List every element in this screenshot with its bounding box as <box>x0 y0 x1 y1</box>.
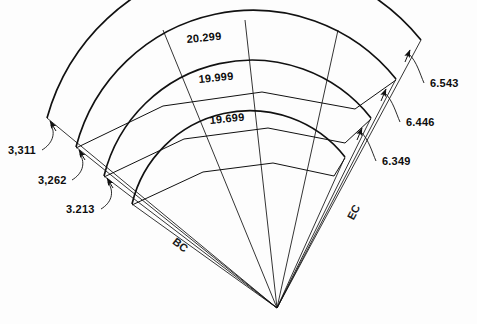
chord-label-outer: 20.299 <box>186 30 222 45</box>
radial-ec-middle <box>277 79 396 308</box>
left-offset-label-inner: 3.213 <box>66 203 95 215</box>
curve-diagram-canvas: 3,311 3,262 3.213 6.543 6.446 6.349 20.2… <box>0 0 477 324</box>
outer-inner-arc <box>76 10 396 147</box>
right-offset-annotations: 6.543 6.446 6.349 <box>357 50 459 167</box>
right-offset-label-middle: 6.446 <box>406 116 435 128</box>
radial-ec-innermost <box>277 157 345 308</box>
outer-outer-arc <box>47 0 421 118</box>
inner-band <box>132 111 345 205</box>
radial-station-2 <box>245 20 277 308</box>
left-offset-label-outer: 3,311 <box>8 144 36 156</box>
radial-ec-outer <box>277 40 421 308</box>
curve-diagram-svg: 3,311 3,262 3.213 6.543 6.446 6.349 20.2… <box>0 0 477 324</box>
right-tick-outer <box>405 50 410 62</box>
left-leader-outer <box>42 125 53 150</box>
radial-bc-inner <box>104 176 277 308</box>
left-offset-label-middle: 3,262 <box>38 174 67 186</box>
right-leader-middle <box>385 93 400 122</box>
chord-length-labels: 20.299 19.999 19.699 <box>186 30 245 126</box>
station-label-ec: EC <box>345 203 363 222</box>
radial-bc-middle <box>76 147 277 308</box>
chord-label-middle: 19.999 <box>198 70 234 85</box>
station-label-bc: BC <box>171 235 191 254</box>
right-offset-label-outer: 6.543 <box>430 77 459 89</box>
outer-band <box>47 0 421 148</box>
left-leader-middle <box>72 154 83 180</box>
middle-chord-polyline <box>104 119 371 177</box>
radial-lines <box>47 20 421 308</box>
right-leader-inner <box>361 132 376 161</box>
left-offset-annotations: 3,311 3,262 3.213 <box>8 121 113 215</box>
radial-station-3 <box>277 30 338 308</box>
left-leader-inner <box>101 182 112 209</box>
chord-label-inner: 19.699 <box>209 111 245 126</box>
right-offset-label-inner: 6.349 <box>382 155 411 167</box>
inner-chord-polyline <box>132 158 345 205</box>
